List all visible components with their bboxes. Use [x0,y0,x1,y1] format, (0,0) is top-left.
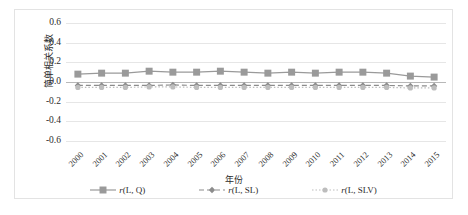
x-axis-tick-label: 2014 [392,149,417,174]
series-line [78,85,434,86]
data-series [75,82,438,89]
data-point-marker [265,85,270,90]
x-axis-tick-label: 2005 [179,149,204,174]
data-point-marker [146,68,153,75]
data-point-marker [407,73,414,80]
data-point-marker [384,85,389,90]
data-point-marker [336,69,343,76]
data-point-marker [241,69,248,76]
x-axis-tick-label: 2004 [155,149,180,174]
legend-item[interactable]: r(L, SLV) [312,185,377,195]
x-axis-tick-label: 2003 [131,149,156,174]
data-point-marker [383,70,390,77]
data-point-marker [123,85,128,90]
series-line [78,71,434,77]
legend-swatch-square-icon [90,185,116,195]
series-canvas [66,23,446,141]
legend-label: r(L, SLV) [341,185,377,195]
data-point-marker [337,85,342,90]
y-axis-tick-label: -0.4 [35,115,61,125]
data-point-marker [193,69,200,76]
data-point-marker [360,85,365,90]
data-point-marker [359,69,366,76]
y-axis-tick-label: 0.4 [35,37,61,47]
data-point-marker [264,70,271,77]
data-point-marker [432,85,437,90]
data-point-marker [288,69,295,76]
y-axis-tick-label: 0.0 [35,76,61,86]
legend-item[interactable]: r(L, Q) [90,185,145,195]
data-point-marker [98,70,105,77]
data-point-marker [147,84,152,89]
data-point-marker [242,85,247,90]
legend-label-args: (L, SLV) [345,185,377,195]
data-point-marker [169,69,176,76]
data-point-marker [74,71,81,78]
legend-label-args: (L, SL) [232,185,259,195]
legend-swatch-circle-icon [312,185,338,195]
x-axis-tick-label: 2000 [60,149,85,174]
data-point-marker [75,85,80,90]
x-axis-tick-label: 2009 [274,149,299,174]
data-point-marker [122,70,129,77]
x-axis-tick-label: 2012 [345,149,370,174]
data-point-marker [312,70,319,77]
y-axis-tick-label: -0.2 [35,96,61,106]
legend-label: r(L, SL) [228,185,258,195]
legend-swatch-diamond-icon [199,185,225,195]
data-series [74,68,437,81]
series-line [78,87,434,88]
x-axis-tick-label: 2001 [84,149,109,174]
y-axis-tick-label: 0.2 [35,56,61,66]
y-axis-tick-label: 0.6 [35,17,61,27]
data-point-marker [431,74,438,81]
x-axis-tick-label: 2006 [202,149,227,174]
x-axis-tick-label: 2013 [369,149,394,174]
data-point-marker [99,85,104,90]
chart-frame: 简单相关系数 0.60.40.20.0-0.2-0.4-0.6 20002001… [14,9,453,199]
x-axis-tick-label: 2002 [107,149,132,174]
data-point-marker [313,85,318,90]
data-point-marker [289,85,294,90]
x-axis-tick-label: 2008 [250,149,275,174]
legend-label: r(L, Q) [119,185,145,195]
chart-legend: r(L, Q)r(L, SL)r(L, SLV) [15,185,452,195]
x-axis-tick-label: 2007 [226,149,251,174]
y-axis-tick-label: -0.6 [35,135,61,145]
legend-label-args: (L, Q) [123,185,146,195]
x-axis-tick-label: 2010 [297,149,322,174]
gridline [66,141,446,142]
x-axis-tick-label: 2015 [416,149,441,174]
legend-item[interactable]: r(L, SL) [199,185,258,195]
data-point-marker [218,85,223,90]
data-point-marker [170,84,175,89]
data-point-marker [194,85,199,90]
x-axis-tick-label: 2011 [321,149,346,174]
plot-area [66,23,446,141]
data-point-marker [217,68,224,75]
data-point-marker [408,85,413,90]
